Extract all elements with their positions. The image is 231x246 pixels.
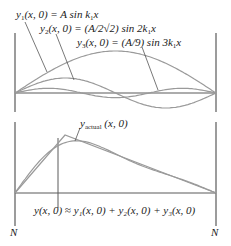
y2-label: y2(x, 0) = (A/2√2) sin 2k1x — [39, 22, 156, 36]
standing-wave-diagram: y1(x, 0) = A sin k1x y2(x, 0) = (A/2√2) … — [0, 0, 231, 246]
node-left-label: N — [9, 226, 18, 238]
fourier-sum-curve — [15, 141, 216, 193]
actual-label: yactual (x, 0) — [79, 117, 128, 131]
y3-leader — [142, 47, 158, 90]
y1-label: y1(x, 0) = A sin k1x — [15, 8, 99, 22]
actual-shape-curve — [15, 135, 216, 193]
y2-leader — [56, 34, 74, 80]
actual-leader — [75, 128, 80, 141]
sum-label: y(x, 0) ≈ y₁(x, 0) + y₂(x, 0) + y₃(x, 0) — [33, 204, 196, 217]
y3-label: y3(x, 0) = (A/9) sin 3k1x — [76, 36, 181, 50]
node-right-label: N — [210, 226, 219, 238]
harmonic-1-curve — [15, 51, 216, 93]
